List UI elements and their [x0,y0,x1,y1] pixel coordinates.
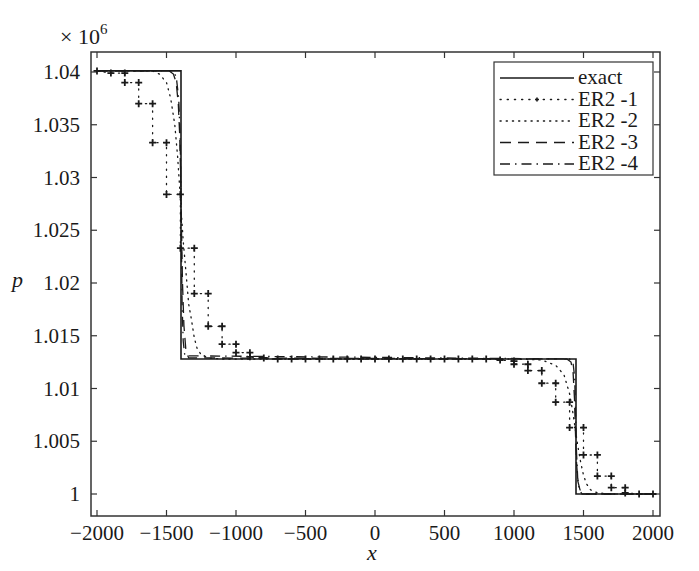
y-multiplier-label: × 106 [60,21,108,49]
x-tick-label: 1500 [563,521,605,545]
y-tick-label: 1.03 [43,166,80,190]
plus-marker [538,380,545,387]
plus-marker [566,399,573,406]
x-tick-label: −2000 [70,521,124,545]
x-tick-label: 1000 [493,521,535,545]
plus-marker [233,341,240,348]
x-tick-label: 2000 [632,521,674,545]
plus-marker [594,451,601,458]
plus-marker [191,245,198,252]
plus-marker [163,139,170,146]
y-tick-label: 1.035 [33,113,80,137]
legend-label: exact [578,65,622,89]
plus-marker [552,380,559,387]
y-tick-label: 1 [70,482,81,506]
plus-marker [121,79,128,86]
legend: exactER2 -1ER2 -2ER2 -3ER2 -4 [494,62,653,175]
plus-marker [538,367,545,374]
plus-marker [219,341,226,348]
plus-marker [580,424,587,431]
x-axis-label: x [366,540,377,565]
plus-marker [163,191,170,198]
plus-marker [205,323,212,330]
plus-marker [149,100,156,107]
plus-marker [149,139,156,146]
plus-marker [580,451,587,458]
y-tick-label: 1.015 [33,324,80,348]
plus-marker [622,489,629,496]
y-tick-label: 1.01 [43,377,80,401]
legend-label: ER2 -4 [578,151,639,175]
legend-label: ER2 -3 [578,130,638,154]
plus-marker [524,361,531,368]
plus-marker [594,473,601,480]
y-tick-label: 1.025 [33,218,80,242]
legend-label: ER2 -2 [578,108,638,132]
pressure-chart: × 106 −2000−1500−1000−500050010001500200… [0,0,699,571]
plus-marker [205,290,212,297]
y-tick-label: 1.02 [43,271,80,295]
plus-marker [566,424,573,431]
x-tick-label: −1500 [140,521,194,545]
plus-marker [608,484,615,491]
y-axis-label: p [10,267,23,292]
legend-label: ER2 -1 [578,87,638,111]
plus-marker [191,290,198,297]
plus-marker [524,367,531,374]
x-tick-label: 500 [429,521,461,545]
y-tick-label: 1.005 [33,429,80,453]
plus-marker [135,100,142,107]
plus-marker [219,323,226,330]
plus-marker [233,349,240,356]
plus-marker [552,399,559,406]
x-tick-label: −1000 [209,521,263,545]
plus-marker [497,357,504,364]
plus-marker [608,473,615,480]
y-tick-label: 1.04 [43,60,80,84]
x-tick-label: −500 [284,521,327,545]
plus-marker [177,245,184,252]
plus-marker [135,79,142,86]
